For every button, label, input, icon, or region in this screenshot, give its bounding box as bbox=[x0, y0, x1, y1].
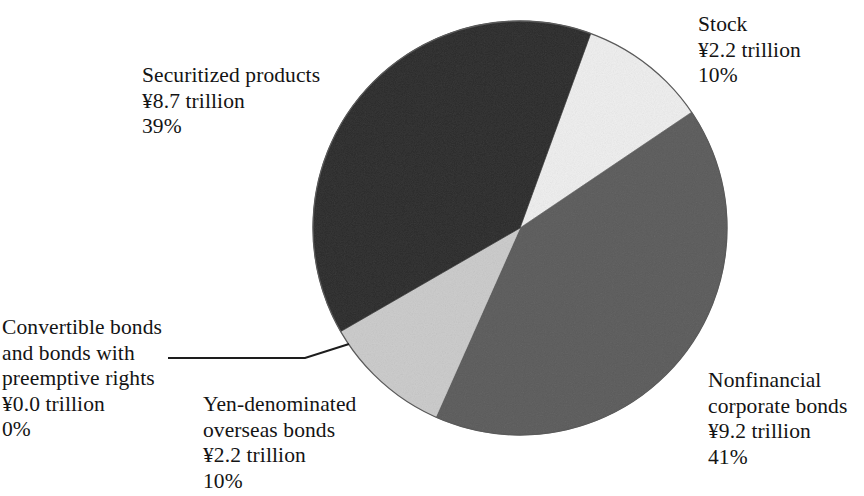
slice-label-securitized-name: Securitized products bbox=[142, 63, 320, 89]
slice-label-convertible-percent: 0% bbox=[2, 417, 162, 443]
slice-label-stock-name: Stock bbox=[698, 12, 801, 38]
pie-chart-figure: Stock ¥2.2 trillion 10% Securitized prod… bbox=[0, 0, 864, 496]
slice-label-securitized-value: ¥8.7 trillion bbox=[142, 89, 320, 115]
slice-label-nonfinancial-name-line1: Nonfinancial bbox=[708, 368, 847, 394]
slice-label-yen-denominated-overseas-bonds: Yen-denominated overseas bonds ¥2.2 tril… bbox=[203, 392, 356, 494]
slice-label-nonfinancial-name-line2: corporate bonds bbox=[708, 394, 847, 420]
slice-label-stock-percent: 10% bbox=[698, 63, 801, 89]
slice-label-convertible-bonds: Convertible bonds and bonds with preempt… bbox=[2, 315, 162, 443]
pie-slices-group bbox=[313, 21, 727, 435]
slice-label-convertible-value: ¥0.0 trillion bbox=[2, 392, 162, 418]
slice-label-stock-value: ¥2.2 trillion bbox=[698, 38, 801, 64]
slice-label-yen-percent: 10% bbox=[203, 469, 356, 495]
slice-label-yen-name-line2: overseas bonds bbox=[203, 418, 356, 444]
slice-label-convertible-name-line1: Convertible bonds bbox=[2, 315, 162, 341]
slice-label-securitized-products: Securitized products ¥8.7 trillion 39% bbox=[142, 63, 320, 140]
slice-label-yen-value: ¥2.2 trillion bbox=[203, 443, 356, 469]
slice-label-nonfinancial-corporate-bonds: Nonfinancial corporate bonds ¥9.2 trilli… bbox=[708, 368, 847, 470]
slice-label-nonfinancial-percent: 41% bbox=[708, 445, 847, 471]
leader-line-convertible-bonds bbox=[168, 344, 349, 358]
slice-label-nonfinancial-value: ¥9.2 trillion bbox=[708, 419, 847, 445]
slice-label-yen-name-line1: Yen-denominated bbox=[203, 392, 356, 418]
slice-label-stock: Stock ¥2.2 trillion 10% bbox=[698, 12, 801, 89]
slice-label-convertible-name-line3: preemptive rights bbox=[2, 366, 162, 392]
slice-label-convertible-name-line2: and bonds with bbox=[2, 341, 162, 367]
slice-label-securitized-percent: 39% bbox=[142, 114, 320, 140]
